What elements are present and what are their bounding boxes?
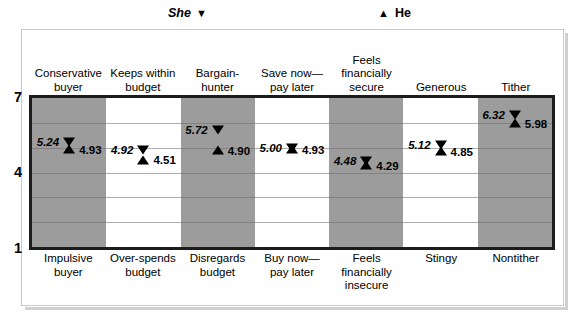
top-label-4: Feels financially secure — [329, 54, 404, 95]
top-label-6: Tither — [478, 81, 553, 95]
legend-item-she: She▼ — [168, 6, 207, 20]
top-label-0: Conservative buyer — [31, 67, 106, 94]
column-band-2 — [181, 98, 255, 247]
bottom-label-4: Feels financially insecure — [329, 252, 404, 293]
column-band-5 — [403, 98, 477, 247]
y-axis-tick-1: 1 — [8, 241, 22, 255]
legend-label-she: She — [168, 6, 191, 20]
top-label-3: Save now—pay later — [255, 67, 330, 94]
plot-area: 5.244.925.725.004.485.126.324.934.514.90… — [29, 95, 555, 250]
legend-label-he: He — [395, 6, 411, 20]
column-band-0 — [32, 98, 106, 247]
bottom-label-5: Stingy — [404, 252, 479, 266]
column-bands — [32, 98, 552, 247]
bottom-label-3: Buy now—pay later — [255, 252, 330, 279]
column-band-1 — [106, 98, 180, 247]
chart-legend: She▼ ▲He — [0, 4, 577, 26]
column-band-4 — [329, 98, 403, 247]
column-band-3 — [255, 98, 329, 247]
top-pole-labels: Conservative buyer Keeps within budget B… — [31, 40, 553, 94]
card-shadow-right — [565, 33, 568, 310]
top-label-2: Bargain-hunter — [180, 67, 255, 94]
bottom-pole-labels: Impulsive buyer Over-spends budget Disre… — [31, 252, 553, 304]
top-label-5: Generous — [404, 81, 479, 95]
legend-item-he: ▲He — [378, 6, 411, 20]
bottom-label-6: Nontither — [478, 252, 553, 266]
bottom-label-2: Disregards budget — [180, 252, 255, 279]
bottom-label-0: Impulsive buyer — [31, 252, 106, 279]
triangle-down-icon: ▼ — [196, 7, 207, 19]
y-axis-tick-4: 4 — [8, 165, 22, 179]
y-axis-tick-7: 7 — [8, 90, 22, 104]
triangle-up-icon: ▲ — [378, 7, 389, 19]
semantic-differential-chart: She▼ ▲He 7 4 1 Conservative buyer Keeps … — [0, 0, 577, 317]
column-band-6 — [478, 98, 552, 247]
card-shadow-bottom — [25, 307, 568, 310]
bottom-label-1: Over-spends budget — [106, 252, 181, 279]
top-label-1: Keeps within budget — [106, 67, 181, 94]
